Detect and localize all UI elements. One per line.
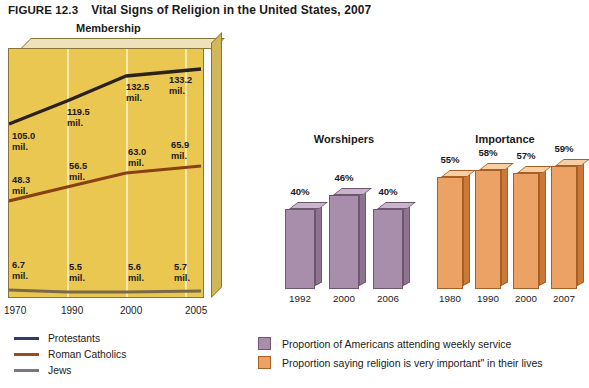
legend-item-roman-catholics: Roman Catholics (14, 346, 126, 362)
bar-legend: Proportion of Americans attending weekly… (258, 334, 543, 372)
bar-value-label: 59% (554, 143, 573, 154)
jews-label-1970: 6.7mil. (12, 260, 28, 281)
legend-label-roman-catholics: Roman Catholics (48, 349, 126, 360)
legend-line-swatch-roman-catholics (14, 353, 39, 356)
bar-value-label: 55% (440, 154, 459, 165)
figure-header: FIGURE 12.3 Vital Signs of Religion in t… (8, 3, 371, 17)
bar-front-face (373, 209, 403, 289)
bar-value-label: 40% (290, 186, 309, 197)
bar-side-face (359, 188, 366, 286)
bar-side-face (501, 163, 508, 286)
bar-side-face (577, 159, 584, 286)
bar-importance-1990: 58% 1990 (475, 170, 501, 289)
panel-right-face (211, 32, 222, 298)
worshipers-bar-chart: Worshipers 40% 1992 46% 2000 40% 2006 (278, 133, 410, 305)
legend-label-protestants: Protestants (48, 333, 100, 344)
bar-worshipers-2006: 40% 2006 (373, 209, 403, 289)
bar-side-face (539, 166, 546, 286)
legend-line-swatch-jews (14, 369, 39, 372)
legend-label-very-important: Proportion saying religion is very impor… (282, 357, 543, 369)
bar-category-label: 1992 (289, 293, 311, 304)
bar-worshipers-2000: 46% 2000 (329, 195, 359, 289)
bar-value-label: 58% (478, 147, 497, 158)
x-tick-1990: 1990 (61, 305, 83, 316)
legend-item-jews: Jews (14, 362, 126, 378)
bar-side-face (403, 202, 410, 286)
legend-box-swatch-very-important (258, 356, 271, 369)
protestants-label-1970: 105.0mil. (12, 131, 35, 152)
worshipers-chart-title: Worshipers (278, 133, 410, 145)
membership-x-axis: 1970 1990 2000 2005 (8, 305, 222, 319)
catholics-label-1990: 56.5mil. (69, 161, 87, 182)
legend-item-weekly-service: Proportion of Americans attending weekly… (258, 334, 543, 353)
legend-line-swatch-protestants (14, 337, 39, 340)
bar-value-label: 57% (516, 150, 535, 161)
bar-value-label: 40% (378, 186, 397, 197)
legend-label-jews: Jews (48, 365, 71, 376)
bar-importance-2000: 57% 2000 (513, 173, 539, 289)
bar-category-label: 2007 (553, 293, 575, 304)
bar-value-label: 46% (334, 172, 353, 183)
catholics-label-1970: 48.3mil. (12, 175, 30, 196)
panel-front-face: 105.0mil. 119.5mil. 132.5mil. 133.2mil. … (8, 48, 204, 298)
figure-number: FIGURE 12.3 (8, 4, 78, 16)
bar-importance-1980: 55% 1980 (437, 177, 463, 289)
jews-label-1990: 5.5mil. (69, 262, 85, 283)
importance-bar-chart: Importance 55% 1980 58% 1990 57% 2000 59… (432, 133, 578, 305)
bar-front-face (475, 170, 501, 289)
bar-category-label: 1990 (477, 293, 499, 304)
membership-chart-title: Membership (76, 22, 141, 34)
bar-side-face (315, 202, 322, 286)
jews-label-2005: 5.7mil. (174, 262, 190, 283)
legend-item-very-important: Proportion saying religion is very impor… (258, 353, 543, 372)
bar-top-face (479, 163, 514, 170)
bar-top-face (517, 166, 552, 173)
legend-label-weekly-service: Proportion of Americans attending weekly… (282, 338, 511, 350)
bar-front-face (551, 166, 577, 289)
bar-top-face (441, 170, 476, 177)
bar-front-face (513, 173, 539, 289)
protestants-label-2000: 132.5mil. (126, 82, 149, 103)
x-tick-2005: 2005 (185, 305, 207, 316)
membership-line-chart: 105.0mil. 119.5mil. 132.5mil. 133.2mil. … (8, 38, 222, 304)
figure-title: Vital Signs of Religion in the United St… (91, 3, 371, 17)
bar-front-face (285, 209, 315, 289)
bar-importance-2007: 59% 2007 (551, 166, 577, 289)
jews-label-2000: 5.6mil. (128, 262, 144, 283)
bar-category-label: 2000 (333, 293, 355, 304)
bar-category-label: 1980 (439, 293, 461, 304)
bar-side-face (463, 170, 470, 286)
legend-item-protestants: Protestants (14, 330, 126, 346)
catholics-label-2005: 65.9mil. (171, 140, 189, 161)
bar-front-face (329, 195, 359, 289)
bar-front-face (437, 177, 463, 289)
catholics-label-2000: 63.0mil. (128, 147, 146, 168)
protestants-label-1990: 119.5mil. (67, 107, 90, 128)
legend-box-swatch-weekly-service (258, 337, 271, 350)
line-legend: Protestants Roman Catholics Jews (14, 330, 126, 378)
bar-category-label: 2000 (515, 293, 537, 304)
bar-category-label: 2006 (377, 293, 399, 304)
protestants-label-2005: 133.2mil. (169, 75, 192, 96)
x-tick-1970: 1970 (4, 305, 26, 316)
roman-catholics-line (9, 166, 201, 201)
bar-worshipers-1992: 40% 1992 (285, 209, 315, 289)
x-tick-2000: 2000 (120, 305, 142, 316)
jews-line (9, 290, 201, 292)
